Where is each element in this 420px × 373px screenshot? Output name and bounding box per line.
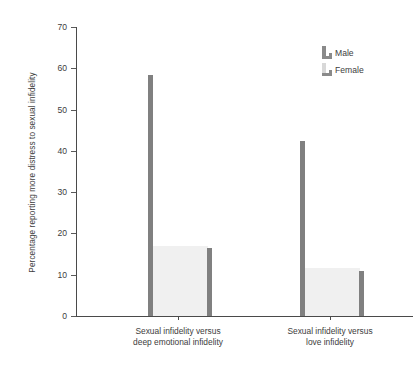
- x-axis-label-group2-line1: Sexual infidelity versus: [287, 326, 372, 337]
- x-tick-group1: [178, 316, 179, 320]
- bar-female-group1-edge: [207, 248, 212, 316]
- y-tick-label-0: 0: [62, 311, 67, 321]
- legend-swatch-female-icon: [320, 63, 332, 76]
- legend: Male Female: [320, 44, 364, 78]
- x-axis-label-group1-line2: deep emotional infidelity: [133, 337, 223, 348]
- y-axis-title: Percentage reporting more distress to se…: [28, 23, 37, 323]
- y-tick-label-20: 20: [57, 228, 67, 238]
- y-tick-label-30: 30: [57, 187, 67, 197]
- y-tick-label-10: 10: [57, 270, 67, 280]
- bar-chart: Percentage reporting more distress to se…: [0, 0, 420, 373]
- y-tick-label-40: 40: [57, 146, 67, 156]
- x-tick-group2: [330, 316, 331, 320]
- bar-female-group2: [305, 268, 360, 316]
- x-axis-line: [76, 316, 413, 317]
- x-axis-label-group2: Sexual infidelity versus love infidelity: [287, 326, 372, 348]
- legend-label-male: Male: [335, 48, 354, 58]
- legend-swatch-male-icon: [320, 46, 332, 59]
- bar-female-group2-edge: [359, 271, 364, 316]
- x-axis-label-group2-line2: love infidelity: [287, 337, 372, 348]
- y-axis-line: [76, 27, 77, 317]
- y-tick-label-70: 70: [57, 22, 67, 32]
- bar-female-group1: [153, 246, 208, 316]
- legend-item-female: Female: [320, 61, 364, 78]
- y-tick-label-50: 50: [57, 105, 67, 115]
- y-tick-label-60: 60: [57, 63, 67, 73]
- legend-item-male: Male: [320, 44, 364, 61]
- x-axis-label-group1: Sexual infidelity versus deep emotional …: [133, 326, 223, 348]
- legend-label-female: Female: [335, 65, 364, 75]
- x-axis-label-group1-line1: Sexual infidelity versus: [133, 326, 223, 337]
